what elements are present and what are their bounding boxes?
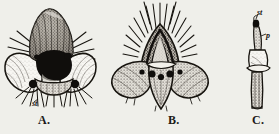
figure-c-lower-stalk xyxy=(251,72,263,108)
figure-c-flange xyxy=(247,65,270,72)
figure-a-caption: A. xyxy=(38,114,50,126)
figure-c-p-label: p xyxy=(266,32,270,40)
figure-c-st-label: st xyxy=(257,9,262,17)
illustration-plate: st st p A. B. C. xyxy=(0,0,279,134)
figure-a-st-label: st xyxy=(32,100,37,108)
figure-b-spot-left xyxy=(148,70,155,77)
figure-a-left-node xyxy=(29,80,37,88)
figure-b-spot-center xyxy=(158,74,164,80)
figure-a-right-knob xyxy=(64,53,72,59)
figure-b-spot-outer-left xyxy=(139,69,144,74)
figure-b-spot-outer-right xyxy=(177,69,182,74)
figure-a-right-node xyxy=(71,80,79,88)
figure-b-spot-right xyxy=(166,70,173,77)
figure-b-caption: B. xyxy=(168,114,180,126)
figure-c-caption: C. xyxy=(252,114,264,126)
figure-c-upper-shaft xyxy=(254,27,262,50)
figure-a-left-knob xyxy=(34,55,40,60)
